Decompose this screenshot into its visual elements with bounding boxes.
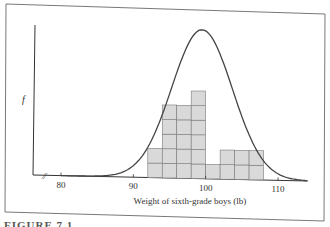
histogram-cell	[162, 134, 176, 149]
histogram-cell	[206, 164, 220, 179]
x-tick-label: 90	[129, 181, 139, 191]
histogram-cell	[191, 91, 205, 106]
histogram-cell	[162, 120, 176, 135]
histogram-cell	[148, 148, 162, 163]
x-axis-label: Weight of sixth-grade boys (lb)	[134, 196, 247, 206]
histogram-cell	[191, 120, 205, 135]
histogram-with-normal-curve: ⁄⁄ f 8090100110 Weight of sixth-grade bo…	[0, 0, 330, 227]
histogram-cell	[235, 150, 249, 165]
histogram-cell	[177, 120, 191, 135]
histogram-cell	[220, 165, 234, 180]
histogram-cell	[249, 165, 263, 180]
histogram-cell	[177, 134, 191, 149]
histogram-cell	[191, 106, 205, 121]
histogram-cell	[177, 149, 191, 164]
histogram-cell	[235, 165, 249, 180]
x-tick-label: 100	[199, 183, 213, 193]
histogram-cell	[162, 149, 176, 164]
histogram-cell	[148, 163, 162, 178]
histogram-cell	[177, 164, 191, 179]
histogram-cell	[177, 105, 191, 120]
histogram-cell	[191, 135, 205, 150]
histogram-cell	[191, 164, 205, 179]
x-tick-label: 80	[57, 180, 67, 190]
histogram-cell	[162, 163, 176, 178]
figure-caption: FIGURE 7.1	[4, 219, 73, 227]
histogram-cell	[220, 150, 234, 165]
histogram-cell	[191, 149, 205, 164]
x-tick-label: 110	[271, 184, 285, 194]
